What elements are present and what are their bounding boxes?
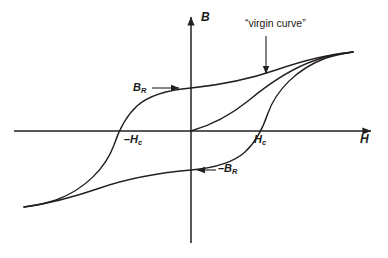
pointer-lines-group [152,36,266,170]
hysteresis-loop-figure [0,0,388,258]
x-axis-label: H [360,133,369,145]
coercivity-positive-symbol: H [254,133,262,145]
coercivity-positive-subscript: c [262,138,266,147]
remanence-positive-label: BR [133,82,146,93]
coercivity-negative-subscript: c [138,138,142,147]
coercivity-negative-symbol: –H [124,133,138,145]
remanence-negative-symbol: –B [218,162,232,174]
coercivity-negative-label: –Hc [124,134,142,145]
virgin-curve-path [191,52,353,131]
coercivity-positive-label: Hc [254,134,266,145]
descending-branch-path [24,52,353,207]
virgin-curve-label: “virgin curve” [245,18,306,29]
remanence-negative-subscript: R [232,167,237,176]
remanence-positive-subscript: R [141,86,146,95]
hysteresis-curves-group [24,52,353,207]
y-axis-label: B [201,11,210,23]
ascending-branch-path [24,52,353,207]
remanence-negative-label: –BR [218,163,237,174]
remanence-positive-symbol: B [133,81,141,93]
